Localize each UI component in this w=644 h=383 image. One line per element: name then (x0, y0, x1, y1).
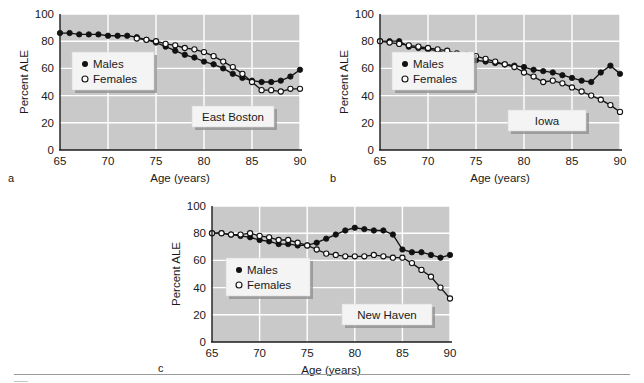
x-tick-label: 80 (198, 155, 211, 167)
y-tick-label: 40 (193, 282, 206, 294)
y-tick-label: 40 (361, 90, 374, 102)
y-tick-label: 100 (355, 8, 374, 20)
plot-c: 020406080100657075808590Percent ALEAge (… (150, 192, 490, 382)
legend-label-females: Females (413, 73, 457, 85)
legend-label-males: Males (93, 58, 124, 70)
footer-divider (14, 374, 630, 375)
y-axis-title: Percent ALE (18, 50, 30, 114)
x-tick-label: 75 (150, 155, 163, 167)
y-axis-title: Percent ALE (338, 50, 350, 114)
site-label: New Haven (357, 309, 416, 321)
plot-a: 020406080100657075808590Percent ALEAge (… (0, 0, 322, 192)
x-tick-label: 85 (566, 155, 579, 167)
x-tick-label: 75 (470, 155, 483, 167)
chart-panel-new-haven: 020406080100657075808590Percent ALEAge (… (150, 192, 490, 382)
x-tick-label: 65 (374, 155, 387, 167)
site-label-box: Iowa (508, 110, 589, 134)
x-tick-label: 70 (102, 155, 115, 167)
y-tick-label: 100 (187, 200, 206, 212)
y-tick-label: 60 (41, 62, 54, 74)
x-tick-label: 90 (614, 155, 627, 167)
legend-label-females: Females (247, 279, 291, 291)
y-axis-title: Percent ALE (170, 242, 182, 306)
footer-divider-secondary (14, 381, 28, 382)
y-tick-label: 40 (41, 90, 54, 102)
x-tick-label: 85 (246, 155, 259, 167)
y-tick-label: 80 (41, 35, 54, 47)
y-tick-label: 20 (193, 309, 206, 321)
y-tick-label: 60 (193, 254, 206, 266)
legend-label-males: Males (247, 264, 278, 276)
legend: MalesFemales (226, 258, 313, 299)
chart-panel-east-boston: 020406080100657075808590Percent ALEAge (… (0, 0, 322, 192)
legend-label-males: Males (413, 58, 444, 70)
x-tick-label: 65 (54, 155, 67, 167)
x-tick-label: 80 (518, 155, 531, 167)
plot-b: 020406080100657075808590Percent ALEAge (… (322, 0, 644, 192)
chart-panel-iowa: 020406080100657075808590Percent ALEAge (… (322, 0, 644, 192)
x-tick-label: 70 (253, 347, 266, 359)
panel-letter: b (330, 172, 336, 184)
legend-label-females: Females (93, 73, 137, 85)
site-label-box: New Haven (342, 304, 435, 328)
x-tick-label: 75 (301, 347, 314, 359)
site-label: East Boston (202, 111, 264, 123)
site-label-box: East Boston (192, 106, 277, 130)
legend: MalesFemales (392, 52, 477, 93)
site-label: Iowa (535, 115, 560, 127)
x-tick-label: 65 (206, 347, 219, 359)
panel-letter: a (8, 172, 15, 184)
x-tick-label: 90 (444, 347, 457, 359)
y-tick-label: 20 (41, 117, 54, 129)
x-axis-title: Age (years) (470, 172, 530, 184)
x-tick-label: 80 (348, 347, 361, 359)
y-tick-label: 20 (361, 117, 374, 129)
x-axis-title: Age (years) (150, 172, 210, 184)
x-tick-label: 70 (422, 155, 435, 167)
legend: MalesFemales (72, 52, 157, 93)
x-tick-label: 85 (396, 347, 409, 359)
y-tick-label: 60 (361, 62, 374, 74)
x-tick-label: 90 (294, 155, 307, 167)
y-tick-label: 100 (35, 8, 54, 20)
y-tick-label: 80 (361, 35, 374, 47)
panel-letter: c (158, 362, 164, 374)
y-tick-label: 80 (193, 227, 206, 239)
